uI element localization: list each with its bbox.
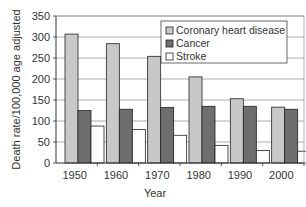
svg-text:200: 200 (32, 73, 50, 85)
legend-label: Cancer (176, 37, 210, 49)
x-tick-label: 1980 (186, 169, 210, 181)
legend-swatch-icon (166, 53, 173, 60)
y-axis-label: Death rate/100,000 age adjusted (10, 9, 22, 169)
bar-cancer-2000 (285, 109, 298, 163)
bar-coronary-heart-disease-2000 (272, 107, 285, 163)
legend-label: Coronary heart disease (176, 24, 285, 36)
bar-coronary-heart-disease-1970 (148, 56, 161, 163)
x-tick-label: 1950 (62, 169, 86, 181)
svg-text:100: 100 (32, 115, 50, 127)
svg-text:300: 300 (32, 31, 50, 43)
legend: Coronary heart diseaseCancerStroke (161, 21, 287, 63)
svg-text:0: 0 (44, 157, 50, 169)
svg-text:350: 350 (32, 10, 50, 22)
legend-swatch-icon (166, 27, 173, 34)
bar-chart: 050100150200250300350Death rate/100,000 … (0, 0, 306, 207)
svg-text:150: 150 (32, 94, 50, 106)
bar-coronary-heart-disease-1990 (230, 99, 243, 163)
bar-stroke-1990 (256, 150, 269, 163)
legend-swatch-icon (166, 40, 173, 47)
x-tick-label: 1960 (104, 169, 128, 181)
bar-stroke-1970 (174, 135, 187, 163)
bar-cancer-1990 (243, 106, 256, 163)
svg-text:50: 50 (38, 136, 50, 148)
svg-text:250: 250 (32, 52, 50, 64)
bar-coronary-heart-disease-1950 (65, 34, 78, 163)
bar-stroke-1950 (91, 126, 104, 163)
x-axis-label: Year (144, 187, 167, 199)
x-tick-label: 1990 (228, 169, 252, 181)
x-tick-label: 1970 (145, 169, 169, 181)
bar-cancer-1970 (161, 108, 174, 163)
bar-cancer-1960 (119, 109, 132, 163)
bar-stroke-2000 (298, 151, 306, 163)
bar-coronary-heart-disease-1960 (106, 44, 119, 163)
bar-stroke-1980 (215, 145, 228, 163)
chart-container: 050100150200250300350Death rate/100,000 … (0, 0, 306, 207)
bar-cancer-1950 (78, 111, 91, 164)
bar-coronary-heart-disease-1980 (189, 77, 202, 163)
y-axis-ticks: 050100150200250300350 (32, 10, 56, 169)
legend-label: Stroke (176, 50, 207, 62)
bar-cancer-1980 (202, 106, 215, 163)
x-tick-label: 2000 (269, 169, 293, 181)
bar-stroke-1960 (132, 129, 145, 163)
